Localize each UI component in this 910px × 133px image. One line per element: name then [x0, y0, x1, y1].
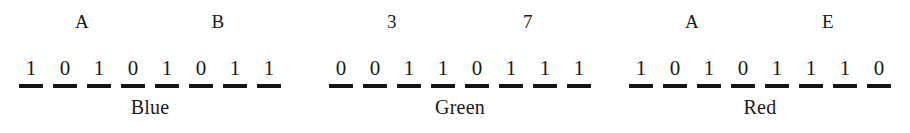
- bit-dash-icon: [833, 84, 857, 88]
- bit-cell: 1: [494, 58, 528, 88]
- bit-cell: 1: [692, 58, 726, 88]
- group-caption: Green: [324, 97, 596, 117]
- bit-cell: 0: [324, 58, 358, 88]
- byte-group-red: A E 1 0 1 0 1: [600, 0, 910, 133]
- nibble-label-high: A: [14, 12, 150, 31]
- bit-dash-icon: [53, 84, 77, 88]
- bit-digit: 1: [772, 58, 783, 79]
- bit-digit: 0: [128, 58, 139, 79]
- bit-dash-icon: [397, 84, 421, 88]
- bits-row-blue: 1 0 1 0 1 0 1: [14, 42, 300, 88]
- bit-dash-icon: [257, 84, 281, 88]
- bit-digit: 0: [336, 58, 347, 79]
- bit-cell: 1: [562, 58, 596, 88]
- bit-dash-icon: [629, 84, 653, 88]
- bit-cell: 1: [82, 58, 116, 88]
- bit-cell: 0: [862, 58, 896, 88]
- bit-dash-icon: [697, 84, 721, 88]
- byte-group-blue: A B 1 0 1 0 1: [0, 0, 300, 133]
- bit-digit: 0: [670, 58, 681, 79]
- bit-cell: 0: [48, 58, 82, 88]
- bit-cell: 0: [726, 58, 760, 88]
- bit-dash-icon: [329, 84, 353, 88]
- bit-dash-icon: [19, 84, 43, 88]
- bit-dash-icon: [867, 84, 891, 88]
- bit-digit: 1: [94, 58, 105, 79]
- bit-dash-icon: [189, 84, 213, 88]
- bit-digit: 0: [196, 58, 207, 79]
- bit-cell: 0: [358, 58, 392, 88]
- nibble-label-row-green: 3 7: [324, 0, 600, 42]
- bit-cell: 0: [116, 58, 150, 88]
- bit-digit: 1: [840, 58, 851, 79]
- group-caption: Blue: [14, 97, 286, 117]
- bit-dash-icon: [363, 84, 387, 88]
- bit-cell: 1: [392, 58, 426, 88]
- bit-digit: 1: [704, 58, 715, 79]
- bit-cell: 1: [760, 58, 794, 88]
- bit-cell: 1: [828, 58, 862, 88]
- bit-dash-icon: [799, 84, 823, 88]
- binary-byte-figure: A B 1 0 1 0 1: [0, 0, 910, 133]
- bits-row-green: 0 0 1 1 0 1 1: [324, 42, 600, 88]
- nibble-label-low: E: [760, 12, 896, 31]
- bit-digit: 0: [472, 58, 483, 79]
- bit-dash-icon: [87, 84, 111, 88]
- bit-cell: 1: [426, 58, 460, 88]
- bit-dash-icon: [499, 84, 523, 88]
- bit-cell: 1: [624, 58, 658, 88]
- bit-digit: 1: [438, 58, 449, 79]
- bit-dash-icon: [533, 84, 557, 88]
- bit-digit: 1: [636, 58, 647, 79]
- nibble-label-high: A: [624, 12, 760, 31]
- bit-digit: 1: [230, 58, 241, 79]
- bit-digit: 1: [806, 58, 817, 79]
- group-caption: Red: [624, 97, 896, 117]
- nibble-label-row-blue: A B: [14, 0, 300, 42]
- bit-digit: 1: [574, 58, 585, 79]
- bit-cell: 1: [528, 58, 562, 88]
- bit-dash-icon: [567, 84, 591, 88]
- bit-cell: 0: [658, 58, 692, 88]
- bit-digit: 1: [264, 58, 275, 79]
- bit-dash-icon: [155, 84, 179, 88]
- bit-cell: 0: [460, 58, 494, 88]
- bit-digit: 0: [874, 58, 885, 79]
- bit-cell: 1: [252, 58, 286, 88]
- nibble-label-row-red: A E: [624, 0, 910, 42]
- bit-dash-icon: [431, 84, 455, 88]
- nibble-label-high: 3: [324, 12, 460, 31]
- bit-cell: 1: [794, 58, 828, 88]
- byte-group-green: 3 7 0 0 1 1 0: [300, 0, 600, 133]
- bit-dash-icon: [765, 84, 789, 88]
- bit-dash-icon: [663, 84, 687, 88]
- bit-digit: 0: [60, 58, 71, 79]
- bit-digit: 0: [370, 58, 381, 79]
- bit-digit: 0: [738, 58, 749, 79]
- bit-cell: 0: [184, 58, 218, 88]
- bit-digit: 1: [26, 58, 37, 79]
- bit-dash-icon: [731, 84, 755, 88]
- bit-cell: 1: [218, 58, 252, 88]
- bit-digit: 1: [540, 58, 551, 79]
- bit-digit: 1: [162, 58, 173, 79]
- nibble-label-low: 7: [460, 12, 596, 31]
- bit-digit: 1: [404, 58, 415, 79]
- bits-row-red: 1 0 1 0 1 1 1: [624, 42, 910, 88]
- bit-dash-icon: [223, 84, 247, 88]
- bit-dash-icon: [465, 84, 489, 88]
- nibble-label-low: B: [150, 12, 286, 31]
- bit-digit: 1: [506, 58, 517, 79]
- bit-dash-icon: [121, 84, 145, 88]
- bit-cell: 1: [150, 58, 184, 88]
- bit-cell: 1: [14, 58, 48, 88]
